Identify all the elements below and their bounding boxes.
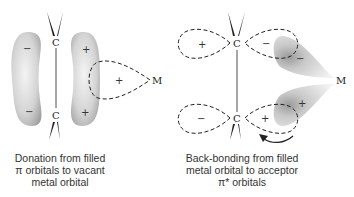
- caption-back-bonding: Back-bonding from filled metal orbital t…: [180, 152, 304, 188]
- sign: +: [298, 98, 306, 109]
- sign: +: [198, 39, 206, 50]
- metal-label: M: [152, 75, 162, 86]
- caption-line: metal orbital: [0, 176, 120, 188]
- atom-c-bottom: C: [52, 110, 60, 121]
- sign: −: [262, 38, 270, 49]
- caption-line: π* orbitals: [180, 176, 304, 188]
- caption-line: Donation from filled: [0, 152, 120, 164]
- sign: −: [296, 53, 304, 64]
- sign: +: [82, 44, 90, 55]
- caption-line: π orbitals to vacant: [0, 164, 120, 176]
- back-bonding-panel: C C M + − − − + +: [178, 12, 346, 142]
- electron-flow-arrow: [264, 136, 293, 142]
- sign: −: [25, 106, 33, 117]
- sign: +: [261, 113, 269, 124]
- caption-donation: Donation from filled π orbitals to vacan…: [0, 152, 120, 188]
- atom-c-top: C: [52, 37, 60, 48]
- sign: +: [81, 107, 89, 118]
- pi-donation-panel: C C M − − + + +: [12, 12, 163, 140]
- caption-line: Back-bonding from filled: [180, 152, 304, 164]
- sign: −: [197, 113, 205, 124]
- caption-line: metal orbital to acceptor: [180, 164, 304, 176]
- sign: −: [23, 43, 31, 54]
- sign: +: [115, 75, 123, 86]
- metal-label: M: [336, 75, 346, 86]
- atom-c-bottom: C: [233, 113, 241, 124]
- atom-c-top: C: [233, 38, 241, 49]
